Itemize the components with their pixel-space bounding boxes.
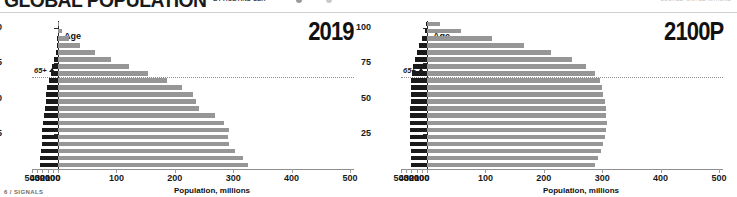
- bar-female: [58, 142, 229, 147]
- x-tick-label: 400: [284, 173, 299, 183]
- y-tick-label: 75: [331, 58, 371, 67]
- bar-female: [58, 106, 199, 111]
- bar-female: [427, 156, 598, 161]
- page-header: GLOBAL POPULATION BY AGE AND SEX SOURCE:…: [0, 0, 737, 13]
- bar-male: [415, 57, 427, 62]
- bar-female: [58, 50, 95, 55]
- bar-female: [58, 85, 182, 90]
- bar-female: [427, 57, 572, 62]
- bar-female: [427, 106, 606, 111]
- x-tick-label: 100: [478, 173, 493, 183]
- bar-female: [427, 64, 586, 69]
- bar-female: [58, 149, 235, 154]
- bar-female: [427, 142, 603, 147]
- x-axis-line-right: [401, 169, 723, 170]
- x-axis-ticks: 5004003002001000100200300400500: [0, 173, 368, 187]
- bar-female: [58, 92, 193, 97]
- header-subtitle: BY AGE AND SEX: [213, 0, 265, 2]
- bar-female: [58, 29, 62, 34]
- bar-male: [411, 156, 427, 161]
- y-tick-label: 50: [0, 94, 2, 103]
- bar-male: [42, 135, 58, 140]
- female-legend-dot: [326, 0, 332, 3]
- x-tick-mark: [116, 169, 117, 173]
- reference-label-65plus: 65+: [34, 66, 55, 75]
- bar-male: [43, 121, 58, 126]
- x-tick-mark: [661, 169, 662, 173]
- bar-female: [427, 50, 551, 55]
- x-tick-mark: [175, 169, 176, 173]
- bar-female: [427, 71, 595, 76]
- bar-female: [427, 22, 440, 27]
- bar-female: [58, 22, 59, 27]
- bar-male: [410, 128, 427, 133]
- bar-male: [410, 142, 427, 147]
- x-tick-mark: [544, 169, 545, 173]
- y-tick-label: 50: [331, 94, 371, 103]
- bar-male: [42, 142, 58, 147]
- x-tick-label: 200: [167, 173, 182, 183]
- x-tick-label: 500: [342, 173, 357, 183]
- x-tick-mark: [53, 169, 54, 173]
- x-tick-mark: [485, 169, 486, 173]
- bar-female: [58, 57, 111, 62]
- x-tick-mark: [422, 169, 423, 173]
- bar-female: [427, 43, 524, 48]
- header-credit: SOURCE: UNITED NATIONS: [661, 0, 731, 2]
- bar-male: [417, 50, 427, 55]
- bar-female: [427, 121, 607, 126]
- y-tick-label: 25: [331, 129, 371, 138]
- reference-label-65plus: 65+: [403, 66, 424, 75]
- header-title: GLOBAL POPULATION: [4, 0, 206, 12]
- x-tick-mark: [602, 169, 603, 173]
- bar-male: [410, 106, 427, 111]
- y-tick-label: 100: [0, 23, 2, 32]
- x-tick-label: 0: [424, 173, 429, 183]
- bar-female: [58, 135, 228, 140]
- bar-male: [46, 92, 58, 97]
- bar-female: [427, 78, 600, 83]
- x-tick-mark: [292, 169, 293, 173]
- bar-male: [411, 99, 427, 104]
- bar-female: [427, 92, 603, 97]
- triangle-up-icon: [418, 68, 424, 72]
- x-axis-title-right: Population, millions: [369, 186, 737, 195]
- bar-female: [58, 99, 196, 104]
- page-footer: 6 / SIGNALS: [4, 189, 43, 195]
- bar-male: [47, 85, 58, 90]
- x-tick-label: 500: [711, 173, 726, 183]
- x-tick-label: 0: [55, 173, 60, 183]
- bar-female: [58, 36, 69, 41]
- x-tick-label: 300: [226, 173, 241, 183]
- y-tick-label: 100: [331, 23, 371, 32]
- reference-line-65plus: [401, 77, 723, 78]
- bar-male: [410, 121, 427, 126]
- x-axis-ticks: 5004003002001000100200300400500: [369, 173, 737, 187]
- bar-male: [45, 106, 58, 111]
- x-tick-label: 100: [109, 173, 124, 183]
- bar-female: [427, 36, 492, 41]
- bar-male: [42, 128, 58, 133]
- x-tick-mark: [350, 169, 351, 173]
- bar-male: [41, 149, 58, 154]
- bar-male: [40, 163, 58, 168]
- bar-female: [58, 78, 167, 83]
- bar-female: [427, 85, 602, 90]
- x-tick-label: 200: [536, 173, 551, 183]
- bar-male: [411, 78, 427, 83]
- x-tick-label: 300: [595, 173, 610, 183]
- bar-male: [44, 113, 58, 118]
- bar-male: [40, 156, 58, 161]
- bar-male: [410, 113, 427, 118]
- bar-female: [427, 149, 601, 154]
- bar-male: [411, 92, 427, 97]
- bar-male: [410, 135, 427, 140]
- bar-female: [58, 113, 215, 118]
- bar-male: [411, 163, 427, 168]
- chart-panel-2100p: 2100P Age Population, millions 100755025…: [369, 13, 737, 197]
- reference-line-65plus: [32, 77, 354, 78]
- bar-male: [411, 149, 427, 154]
- bar-female: [427, 29, 461, 34]
- x-tick-mark: [233, 169, 234, 173]
- bar-female: [58, 128, 229, 133]
